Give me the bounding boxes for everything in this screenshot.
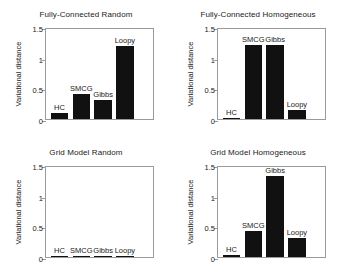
panel-title: Fully-Connected Random [0,10,172,19]
bar [245,231,262,257]
bar [94,100,111,119]
y-tick-label: 0.5 [33,224,43,233]
y-tick-label: 0 [39,255,43,264]
y-axis-label: Variational distance [14,28,24,120]
panel-fully-connected-homogeneous: Fully-Connected Homogeneous Variational … [172,0,344,138]
panel-title: Grid Model Homogeneous [172,148,344,157]
y-tick-label: 1.5 [33,163,43,172]
plot-axes: HCSMCGGibbsLoopy 00.511.5 [217,28,326,120]
y-tick-label: 0 [39,117,43,126]
bar [223,118,240,119]
bar-label: HC [54,246,65,255]
panel-title: Fully-Connected Homogeneous [172,10,344,19]
y-tick-label: 0 [211,255,215,264]
panel-grid-model-random: Grid Model Random Variational distance H… [0,138,172,276]
y-tick-label: 0.5 [33,86,43,95]
bar-label: Gibbs [265,35,285,44]
bar [116,46,133,119]
panel-fully-connected-random: Fully-Connected Random Variational dista… [0,0,172,138]
plot-axes: HCSMCGGibbsLoopy 00.511.5 [45,166,154,258]
bar-label: Gibbs [93,246,113,255]
bar-label: HC [226,108,237,117]
panel-grid-model-homogeneous: Grid Model Homogeneous Variational dista… [172,138,344,276]
panel-title: Grid Model Random [0,148,172,157]
bar-label: Loopy [287,100,307,109]
y-tick-label: 0 [211,117,215,126]
bar-label: SMCG [242,221,265,230]
y-axis-label: Variational distance [186,166,196,258]
bar-label: HC [54,103,65,112]
y-tick-label: 1.5 [205,25,215,34]
bar [288,238,305,257]
bar [116,256,133,257]
bar-label: SMCG [242,35,265,44]
figure-bar-chart-grid: Fully-Connected Random Variational dista… [0,0,344,277]
bar [266,45,283,119]
bar-label: SMCG [70,246,93,255]
bar [73,94,90,119]
y-tick-label: 0.5 [205,224,215,233]
bar [288,110,305,119]
y-tick-label: 1.5 [33,25,43,34]
bar [51,256,68,257]
bar-label: HC [226,245,237,254]
plot-area: HCSMCGGibbsLoopy [46,29,153,119]
plot-area: HCSMCGGibbsLoopy [218,167,325,257]
y-tick-label: 1 [211,55,215,64]
plot-area: HCSMCGGibbsLoopy [46,167,153,257]
bar [266,176,283,257]
y-tick-label: 1 [211,193,215,202]
y-axis-label: Variational distance [186,28,196,120]
y-axis-label: Variational distance [14,166,24,258]
bar-label: Gibbs [93,90,113,99]
plot-axes: HCSMCGGibbsLoopy 00.511.5 [217,166,326,258]
bar [245,45,262,119]
bar [51,113,68,119]
bar [223,255,240,257]
bar-label: Loopy [115,246,135,255]
bar-label: SMCG [70,84,93,93]
y-tick-label: 0.5 [205,86,215,95]
plot-area: HCSMCGGibbsLoopy [218,29,325,119]
plot-axes: HCSMCGGibbsLoopy 00.511.5 [45,28,154,120]
bar-label: Loopy [115,36,135,45]
y-tick-label: 1.5 [205,163,215,172]
bar [73,256,90,257]
bar-label: Gibbs [265,166,285,175]
bar [94,256,111,257]
y-tick-label: 1 [39,55,43,64]
bar-label: Loopy [287,228,307,237]
y-tick-label: 1 [39,193,43,202]
